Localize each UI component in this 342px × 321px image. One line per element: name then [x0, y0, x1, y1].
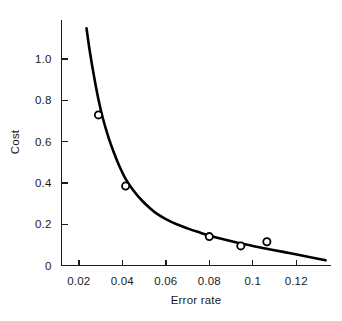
data-point-marker — [95, 111, 102, 118]
y-tick-label: 0.2 — [35, 218, 52, 230]
fitted-curve — [86, 28, 325, 260]
x-tick-label: 0.02 — [67, 275, 90, 287]
x-tick-label: 0.06 — [154, 275, 177, 287]
x-tick-label: 0.08 — [198, 275, 221, 287]
chart-figure: 00.20.40.60.81.0 0.020.040.060.080.10.12… — [0, 0, 342, 321]
x-axis-ticks: 0.020.040.060.080.10.12 — [67, 260, 308, 287]
data-point-marker — [237, 242, 244, 249]
data-point-marker — [263, 238, 270, 245]
x-axis-title: Error rate — [171, 294, 222, 306]
y-tick-label: 0.8 — [35, 94, 52, 106]
y-axis-ticks: 00.20.40.60.81.0 — [35, 53, 68, 271]
y-tick-label: 0 — [45, 260, 52, 272]
y-tick-label: 0.6 — [35, 136, 52, 148]
y-axis-title: Cost — [9, 129, 21, 154]
axes — [62, 20, 332, 266]
data-point-marker — [206, 233, 213, 240]
chart-plot-area: 00.20.40.60.81.0 0.020.040.060.080.10.12… — [0, 0, 342, 321]
x-tick-label: 0.04 — [111, 275, 135, 287]
x-tick-label: 0.1 — [244, 275, 261, 287]
data-series-group — [86, 28, 325, 260]
y-tick-label: 0.4 — [35, 177, 52, 189]
y-tick-label: 1.0 — [35, 53, 52, 65]
x-tick-label: 0.12 — [285, 275, 308, 287]
data-point-marker — [122, 182, 129, 189]
